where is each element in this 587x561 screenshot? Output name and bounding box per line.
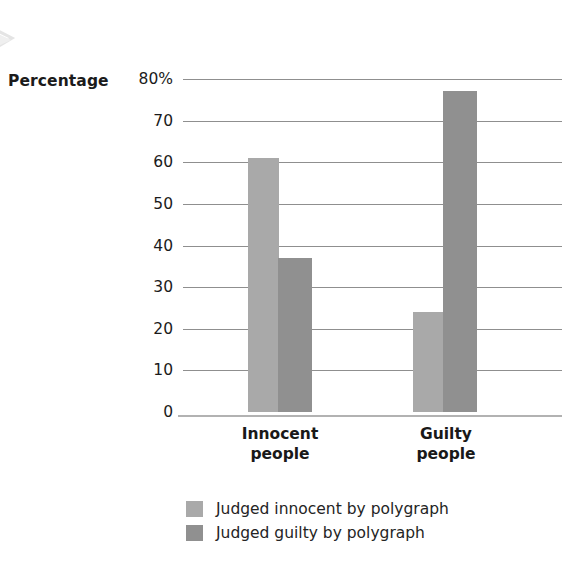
y-axis-tick-label: 50 — [109, 195, 173, 213]
legend-item: Judged innocent by polygraph — [186, 497, 546, 521]
category-label-line1: Innocent — [242, 425, 319, 443]
bar — [443, 91, 477, 412]
y-axis-tick-labels: 01020304050607080% — [105, 0, 173, 561]
category-label-line2: people — [366, 444, 526, 464]
y-axis-tick-label: 80% — [109, 70, 173, 88]
gridline — [183, 246, 562, 247]
x-axis-category-label: Innocentpeople — [200, 424, 360, 464]
gridline — [183, 162, 562, 163]
legend-label: Judged guilty by polygraph — [216, 524, 425, 542]
gridline — [183, 79, 562, 80]
gridline — [183, 121, 562, 122]
legend-swatch-icon — [186, 525, 203, 541]
legend-swatch-icon — [186, 501, 203, 517]
bar — [278, 258, 312, 412]
y-axis-tick-label: 70 — [109, 112, 173, 130]
bar — [413, 312, 444, 412]
y-axis-tick-label: 40 — [109, 237, 173, 255]
gridline — [183, 370, 562, 371]
y-axis-tick-label: 10 — [109, 361, 173, 379]
chart-legend: Judged innocent by polygraphJudged guilt… — [186, 497, 546, 545]
y-axis-tick-label: 20 — [109, 320, 173, 338]
category-label-line1: Guilty — [420, 425, 472, 443]
polygraph-accuracy-bar-chart: Percentage 01020304050607080% Innocentpe… — [0, 0, 587, 561]
bar — [248, 158, 279, 412]
plot-area — [178, 37, 562, 415]
x-axis-category-label: Guiltypeople — [366, 424, 526, 464]
y-axis-tick-label: 0 — [109, 403, 173, 421]
gridline — [183, 329, 562, 330]
y-axis-tick-label: 60 — [109, 153, 173, 171]
legend-item: Judged guilty by polygraph — [186, 521, 546, 545]
gridline — [183, 204, 562, 205]
y-axis-tick-label: 30 — [109, 278, 173, 296]
gridline — [183, 287, 562, 288]
legend-label: Judged innocent by polygraph — [216, 500, 449, 518]
scan-artifact-icon — [0, 18, 46, 66]
category-label-line2: people — [200, 444, 360, 464]
